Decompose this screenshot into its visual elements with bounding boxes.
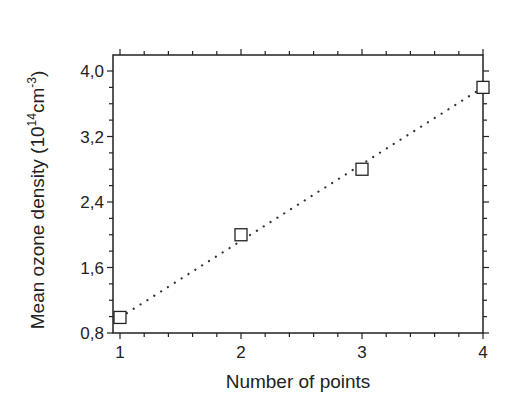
y-axis-title: Mean ozone density (1014cm-3) [25, 71, 48, 329]
data-point-marker [114, 311, 126, 323]
x-tick-label: 4 [478, 343, 487, 362]
plot-frame [113, 55, 483, 333]
y-tick-label: 2,4 [80, 193, 104, 212]
data-points [114, 81, 489, 323]
data-point-marker [477, 81, 489, 93]
fit-line [120, 87, 483, 317]
x-axis-title: Number of points [226, 371, 371, 392]
y-tick-label: 1,6 [80, 259, 104, 278]
y-tick-label: 3,2 [80, 128, 104, 147]
x-tick-label: 1 [115, 343, 124, 362]
axis-ticks [107, 49, 489, 339]
y-tick-label: 4,0 [80, 62, 104, 81]
y-tick-labels: 0,81,62,43,24,0 [80, 62, 104, 343]
data-point-marker [235, 229, 247, 241]
y-tick-label: 0,8 [80, 324, 104, 343]
x-tick-labels: 1234 [115, 343, 487, 362]
chart: 0,81,62,43,24,0 1234 Number of points Me… [0, 0, 514, 397]
x-tick-label: 3 [357, 343, 366, 362]
data-point-marker [356, 163, 368, 175]
x-tick-label: 2 [236, 343, 245, 362]
